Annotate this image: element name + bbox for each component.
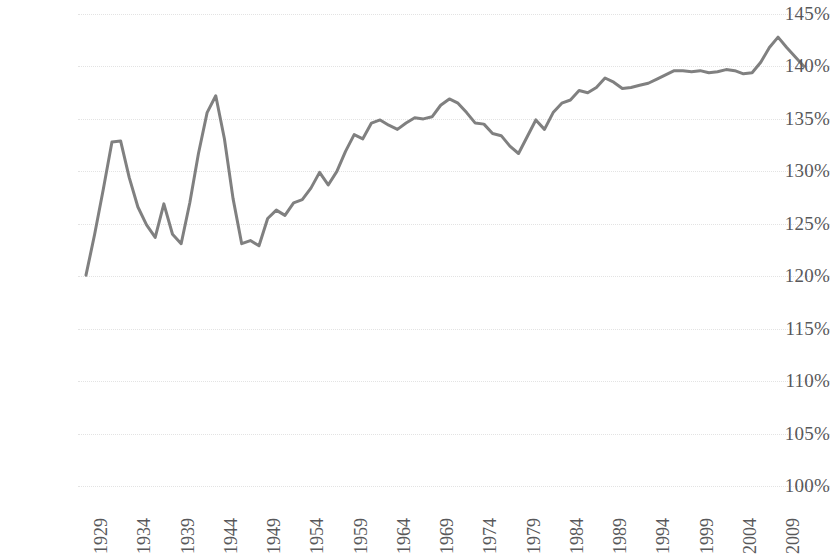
y-tick-label: 110% (758, 371, 830, 390)
y-tick-label: 130% (758, 161, 830, 180)
y-tick-label: 105% (758, 424, 830, 443)
x-tick-label: 1984 (568, 492, 586, 554)
x-tick-label: 1964 (395, 492, 413, 554)
x-tick-label: 1944 (222, 492, 240, 554)
y-tick-label: 145% (758, 4, 830, 23)
chart-container: 145%140%135%130%125%120%115%110%105%100%… (0, 0, 830, 554)
x-tick-label: 1929 (92, 492, 110, 554)
x-tick-label: 1969 (438, 492, 456, 554)
y-tick-label: 140% (758, 56, 830, 75)
y-axis (0, 0, 78, 486)
x-tick-label: 1994 (654, 492, 672, 554)
x-tick-label: 2004 (741, 492, 759, 554)
line-series-path (86, 37, 804, 275)
line-series-svg (78, 0, 830, 486)
y-tick-label: 120% (758, 266, 830, 285)
x-tick-label: 2009 (784, 492, 802, 554)
x-tick-label: 1939 (179, 492, 197, 554)
x-tick-labels-group: 1929193419391944194919541959196419691974… (78, 492, 830, 554)
x-tick-label: 1934 (135, 492, 153, 554)
x-tick-label: 1949 (265, 492, 283, 554)
plot-area (78, 0, 830, 486)
y-tick-label: 135% (758, 109, 830, 128)
y-tick-label: 125% (758, 214, 830, 233)
y-tick-label: 115% (758, 319, 830, 338)
x-tick-label: 1974 (481, 492, 499, 554)
gridline (78, 486, 830, 487)
x-tick-label: 1959 (352, 492, 370, 554)
x-tick-label: 1999 (698, 492, 716, 554)
x-tick-label: 1989 (611, 492, 629, 554)
x-tick-label: 1954 (308, 492, 326, 554)
x-tick-label: 1979 (525, 492, 543, 554)
